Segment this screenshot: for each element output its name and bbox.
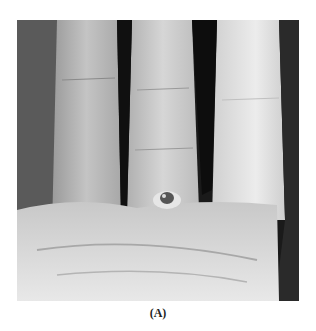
hand-image [17,20,299,301]
clinical-photograph [17,20,299,301]
panel-label: (A) [0,306,316,321]
